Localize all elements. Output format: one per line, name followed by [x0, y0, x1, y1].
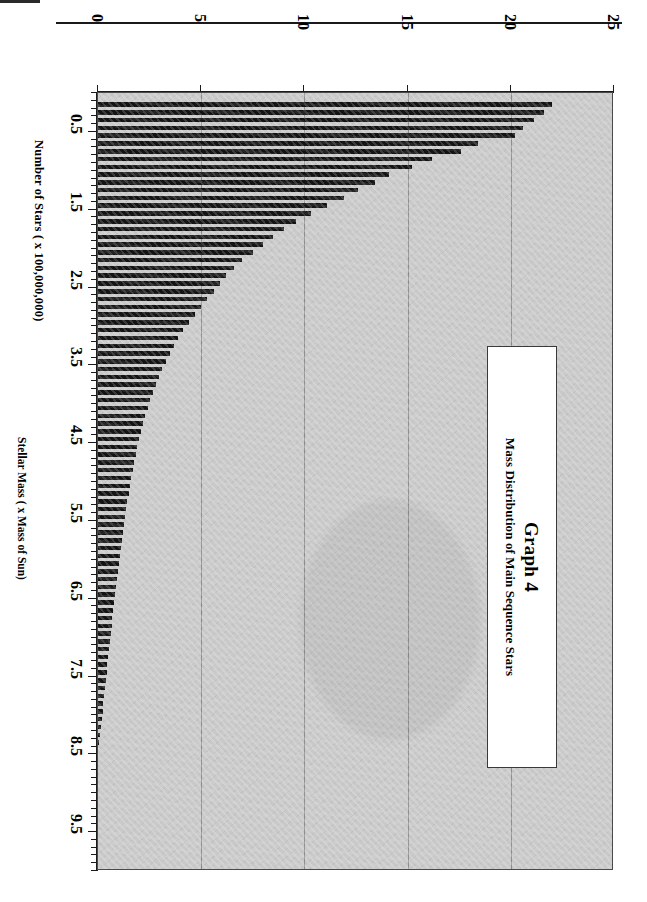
- y-tick: [91, 637, 97, 638]
- bar: [98, 592, 115, 597]
- bar: [98, 655, 108, 660]
- y-tick: [91, 535, 97, 536]
- bar: [98, 452, 136, 457]
- y-tick: [91, 800, 97, 801]
- bar: [98, 258, 242, 263]
- y-tick: [91, 714, 97, 715]
- y-tick: [91, 738, 97, 739]
- bar: [98, 468, 133, 473]
- bar: [98, 491, 129, 496]
- page-corner-mark: [0, 0, 40, 3]
- y-tick: [91, 294, 97, 295]
- bar: [98, 717, 102, 722]
- bar: [98, 414, 145, 419]
- y-tick: [91, 450, 97, 451]
- y-tick: [91, 691, 97, 692]
- y-tick: [91, 115, 97, 116]
- y-tick: [88, 209, 97, 210]
- y-tick: [91, 279, 97, 280]
- y-tick: [91, 341, 97, 342]
- x-tick: [510, 85, 511, 91]
- bar: [98, 165, 412, 170]
- y-tick: [88, 831, 97, 832]
- bar: [98, 476, 131, 481]
- y-tick: [91, 730, 97, 731]
- y-tick: [91, 660, 97, 661]
- bar: [98, 600, 114, 605]
- y-tick: [91, 629, 97, 630]
- bar: [98, 289, 214, 294]
- y-tick-label: 5.5: [67, 503, 85, 523]
- y-tick-label: 0.5: [67, 114, 85, 134]
- bar: [98, 133, 515, 138]
- y-tick: [91, 349, 97, 350]
- bar: [98, 662, 107, 667]
- y-tick: [91, 419, 97, 420]
- y-tick: [91, 123, 97, 124]
- y-tick: [91, 465, 97, 466]
- y-axis-title: Stellar Mass ( x Mass of Sun): [16, 437, 28, 580]
- bar: [98, 312, 195, 317]
- y-tick: [88, 131, 97, 132]
- bar: [98, 546, 121, 551]
- bar: [98, 344, 174, 349]
- bar: [98, 484, 130, 489]
- y-tick: [91, 108, 97, 109]
- y-tick: [91, 473, 97, 474]
- y-tick-label: 2.5: [67, 270, 85, 290]
- y-tick: [91, 403, 97, 404]
- y-tick: [91, 139, 97, 140]
- x-tick: [200, 85, 201, 91]
- bar: [98, 507, 126, 512]
- bar: [98, 709, 103, 714]
- y-tick: [91, 559, 97, 560]
- y-tick: [91, 613, 97, 614]
- y-tick: [91, 224, 97, 225]
- y-tick: [91, 644, 97, 645]
- y-tick: [91, 823, 97, 824]
- bar: [98, 670, 107, 675]
- bar: [98, 359, 166, 364]
- y-tick: [91, 808, 97, 809]
- y-tick: [91, 434, 97, 435]
- x-tick: [407, 85, 408, 91]
- y-tick: [88, 676, 97, 677]
- bar: [98, 616, 112, 621]
- y-tick: [88, 364, 97, 365]
- bar: [98, 678, 106, 683]
- y-tick: [91, 668, 97, 669]
- y-tick: [91, 263, 97, 264]
- bar: [98, 499, 127, 504]
- x-tick-label: 10: [294, 14, 312, 30]
- y-tick: [91, 388, 97, 389]
- bar: [98, 235, 273, 240]
- x-tick-label: 0: [88, 14, 106, 22]
- chart-subtitle: Mass Distribution of Main Sequence Stars: [502, 438, 518, 676]
- bar: [98, 647, 109, 652]
- bar: [98, 180, 375, 185]
- page-top-rule: [56, 22, 622, 24]
- y-tick: [91, 427, 97, 428]
- y-tick: [91, 777, 97, 778]
- y-tick: [91, 722, 97, 723]
- y-tick: [91, 528, 97, 529]
- bar: [98, 538, 122, 543]
- bar: [98, 624, 112, 629]
- bar: [98, 561, 119, 566]
- scan-smudge: [300, 500, 480, 740]
- x-tick-label: 20: [501, 14, 519, 30]
- bar: [98, 305, 201, 310]
- y-tick: [91, 489, 97, 490]
- y-tick: [91, 862, 97, 863]
- bar: [98, 740, 99, 745]
- y-tick: [91, 100, 97, 101]
- bar: [98, 733, 100, 738]
- y-tick: [91, 318, 97, 319]
- bar: [98, 141, 478, 146]
- y-tick: [91, 551, 97, 552]
- y-tick: [91, 605, 97, 606]
- y-tick: [91, 255, 97, 256]
- bar: [98, 110, 544, 115]
- y-tick: [91, 512, 97, 513]
- bar: [98, 554, 120, 559]
